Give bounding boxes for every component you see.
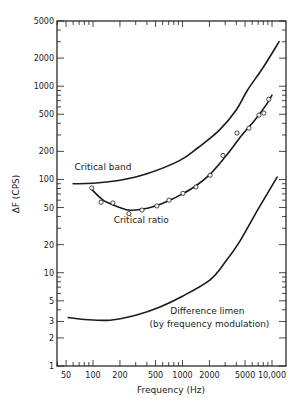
data-point-marker [90, 186, 94, 190]
x-tick-label: 100 [85, 371, 100, 380]
y-tick-label: 3 [49, 317, 54, 326]
data-point-marker [111, 201, 115, 205]
y-tick-label: 1 [49, 362, 54, 371]
data-point-marker [235, 131, 239, 135]
y-tick-label: 2 [49, 334, 54, 343]
y-tick-label: 10 [44, 269, 54, 278]
y-tick-label: 500 [39, 110, 54, 119]
annotations: Critical bandCritical ratioDifference li… [74, 162, 269, 329]
x-axis-title: Frequency (Hz) [137, 385, 205, 395]
data-point-marker [155, 204, 159, 208]
y-tick-label: 1000 [34, 82, 54, 91]
x-tick-label: 1000 [172, 371, 192, 380]
y-tick-label: 20 [44, 241, 54, 250]
y-tick-label: 2000 [34, 54, 54, 63]
y-tick-label: 100 [39, 175, 54, 184]
data-point-marker [262, 111, 266, 115]
x-tick-label: 50 [61, 371, 71, 380]
x-tick-label: 200 [112, 371, 127, 380]
data-point-marker [140, 208, 144, 212]
series-layer [68, 42, 279, 321]
x-tick-label: 500 [148, 371, 163, 380]
data-point-marker [99, 200, 103, 204]
y-tick-label: 50 [44, 204, 54, 213]
data-point-marker [181, 191, 185, 195]
data-point-marker [194, 185, 198, 189]
y-tick-label: 5000 [34, 17, 54, 26]
chart: 5010020050010002000500010,000 1235102050… [0, 0, 304, 406]
data-point-marker [221, 153, 225, 157]
y-tick-label: 200 [39, 147, 54, 156]
annotation-label: Critical ratio [114, 215, 170, 225]
x-tick-label: 2000 [199, 371, 219, 380]
data-point-marker [247, 126, 251, 130]
data-point-marker [208, 173, 212, 177]
x-tick-label: 5000 [235, 371, 255, 380]
data-point-marker [267, 97, 271, 101]
data-point-marker [167, 198, 171, 202]
annotation-label: Difference limen [170, 306, 244, 316]
data-point-marker [257, 113, 261, 117]
y-axis-title: ΔF (CPS) [11, 175, 21, 214]
annotation-label: (by frequency modulation) [150, 319, 270, 329]
annotation-label: Critical band [74, 162, 131, 172]
y-tick-label: 5 [49, 297, 54, 306]
x-tick-label: 10,000 [258, 371, 286, 380]
